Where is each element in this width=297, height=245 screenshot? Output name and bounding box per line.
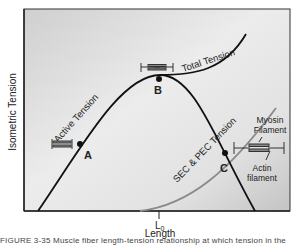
point-b-marker [156,76,162,82]
figure-caption: FIGURE 3-35 Muscle fiber length-tension … [0,236,297,245]
myosin-label-line2: Filament [254,125,287,135]
y-axis-label: Isometric Tension [7,73,18,151]
point-a-label: A [84,149,92,161]
point-c-marker [222,150,228,156]
point-b-label: B [154,84,162,96]
actin-label-line2: filament [247,173,277,183]
point-a-marker [77,141,83,147]
myosin-label-line1: Myosin [257,115,284,125]
actin-label-line1: Actin [253,163,272,173]
point-c-label: C [220,162,228,174]
